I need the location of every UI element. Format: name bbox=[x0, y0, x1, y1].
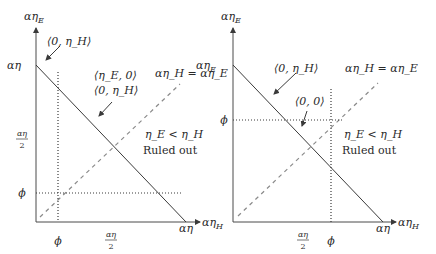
right-diagonal-label: αη_H = αη_E bbox=[345, 62, 418, 75]
left-panel: αηE αη αη 2 ϕ ϕ αη 2 αη αηH ⟨0, η_H⟩ ⟨η_… bbox=[7, 10, 228, 251]
right-panel: αηE αηE ϕ ϕ αη 2 αη αηH ⟨0, η_H⟩ ⟨0, 0⟩ … bbox=[196, 10, 420, 251]
left-annotation-mid-arrow bbox=[99, 102, 112, 116]
left-annotation-mid-1: ⟨η_E, 0⟩ bbox=[94, 69, 137, 82]
left-region-label-1: η_E < η_H bbox=[145, 128, 203, 141]
right-phi-x-label: ϕ bbox=[327, 235, 335, 248]
right-annotation-mid-arrow bbox=[302, 111, 307, 126]
right-region-label-2: Ruled out bbox=[342, 144, 397, 157]
right-y-intercept-label: αηE bbox=[196, 59, 216, 74]
left-region-label-2: Ruled out bbox=[143, 144, 198, 157]
left-annotation-top-arrow bbox=[46, 46, 60, 60]
right-annotation-mid: ⟨0, 0⟩ bbox=[295, 95, 325, 108]
right-x-half-num: αη bbox=[298, 230, 308, 239]
left-y-half-den: 2 bbox=[19, 141, 24, 150]
right-x-half-den: 2 bbox=[300, 242, 305, 251]
left-y-intercept-label: αη bbox=[7, 59, 21, 72]
right-x-intercept-label: αη bbox=[376, 222, 390, 235]
diagram-canvas: αηE αη αη 2 ϕ ϕ αη 2 αη αηH ⟨0, η_H⟩ ⟨η_… bbox=[0, 0, 436, 254]
right-x-axis-label: αηH bbox=[398, 216, 420, 231]
left-x-intercept-label: αη bbox=[179, 222, 193, 235]
left-x-half-den: 2 bbox=[108, 242, 113, 251]
left-x-half-num: αη bbox=[106, 230, 116, 239]
left-y-half-num: αη bbox=[17, 129, 27, 138]
left-phi-y-label: ϕ bbox=[18, 187, 26, 200]
right-annotation-top-arrow bbox=[274, 73, 296, 94]
left-annotation-top: ⟨0, η_H⟩ bbox=[47, 35, 91, 48]
left-y-axis-label: αηE bbox=[24, 10, 44, 25]
right-annotation-top: ⟨0, η_H⟩ bbox=[274, 62, 318, 75]
right-phi-y-label: ϕ bbox=[220, 114, 228, 127]
left-annotation-mid-2: ⟨0, η_H⟩ bbox=[94, 84, 138, 97]
right-y-axis-label: αηE bbox=[221, 10, 241, 25]
left-x-axis-label: αηH bbox=[202, 216, 224, 231]
left-phi-x-label: ϕ bbox=[54, 235, 62, 248]
right-region-label-1: η_E < η_H bbox=[344, 128, 402, 141]
left-diagonal-label: αη_H = αη_E bbox=[155, 67, 228, 80]
